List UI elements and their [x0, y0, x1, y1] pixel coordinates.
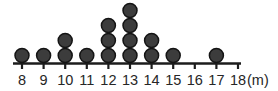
- axis-tick-label-15: 15: [165, 72, 181, 88]
- axis-tick-label-11: 11: [79, 72, 94, 88]
- axis-labels-group: 89101112131415161718: [18, 72, 246, 88]
- axis-tick-label-9: 9: [40, 72, 48, 88]
- data-dot: [80, 49, 94, 63]
- data-dot: [101, 34, 115, 48]
- axis-tick-label-18: 18: [230, 72, 246, 88]
- data-dot: [15, 49, 29, 63]
- dot-plot-canvas: 89101112131415161718 (m): [0, 0, 278, 91]
- data-dot: [145, 49, 159, 63]
- axis-tick-label-16: 16: [187, 72, 203, 88]
- data-dot: [123, 49, 137, 63]
- data-dot: [123, 19, 137, 33]
- axis-tick-label-10: 10: [57, 72, 73, 88]
- axis-tick-label-12: 12: [100, 72, 116, 88]
- data-dot: [58, 49, 72, 63]
- data-dot: [101, 49, 115, 63]
- axis-tick-label-13: 13: [122, 72, 138, 88]
- data-dot: [58, 34, 72, 48]
- axis-tick-label-8: 8: [18, 72, 26, 88]
- data-dot: [145, 34, 159, 48]
- data-dot: [123, 34, 137, 48]
- data-dot: [123, 4, 137, 18]
- data-dot: [209, 49, 223, 63]
- data-dot: [37, 49, 51, 63]
- data-dots-group: [15, 4, 223, 63]
- axis-tick-label-14: 14: [144, 72, 160, 88]
- axis-tick-label-17: 17: [208, 72, 224, 88]
- dot-plot-figure: 89101112131415161718 (m): [0, 0, 278, 91]
- unit-label: (m): [247, 72, 269, 88]
- data-dot: [166, 49, 180, 63]
- data-dot: [101, 19, 115, 33]
